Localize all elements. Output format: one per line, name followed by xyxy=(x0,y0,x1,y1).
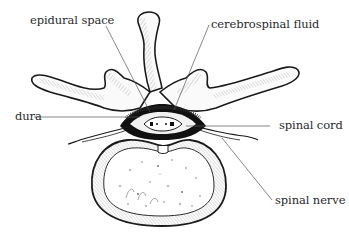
label-spinal-cord: spinal cord xyxy=(279,120,343,132)
label-cerebrospinal-fluid: cerebrospinal fluid xyxy=(211,19,319,31)
label-epidural-space: epidural space xyxy=(30,15,114,27)
spinal-canal xyxy=(68,104,258,144)
label-spinal-nerve: spinal nerve xyxy=(275,195,345,207)
vertebral-body xyxy=(92,140,226,226)
vertebra-diagram: epidural space cerebrospinal fluid dura … xyxy=(0,0,349,240)
leader-spinal-nerve xyxy=(222,138,272,200)
label-dura: dura xyxy=(15,111,42,123)
